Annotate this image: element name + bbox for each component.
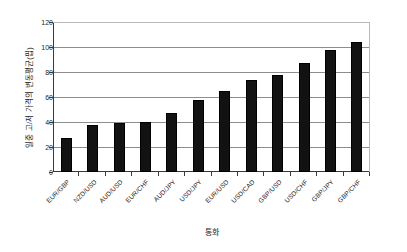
bar-slot <box>317 22 343 172</box>
x-label-cell: GBP/CHF <box>344 176 370 222</box>
bar <box>325 50 336 173</box>
bar-slot <box>291 22 317 172</box>
bar-chart-figure: 일중 고/저 가격의 변동평균(핍) 020406080100120 EUR/G… <box>0 0 407 252</box>
x-axis-title: 통화 <box>53 226 370 237</box>
bar <box>114 123 125 172</box>
bar <box>87 125 98 173</box>
bar <box>193 100 204 173</box>
x-axis-labels: EUR/GBPNZD/USDAUD/USDEUR/CHFAUD/JPYUSD/J… <box>53 176 370 222</box>
y-axis-ticks: 020406080100120 <box>0 0 53 252</box>
bar <box>61 138 72 172</box>
bar-slot <box>79 22 105 172</box>
bar <box>272 75 283 173</box>
bar-slot <box>132 22 158 172</box>
bar-slot <box>344 22 370 172</box>
bar <box>166 113 177 172</box>
bar <box>351 42 362 172</box>
bar-slot <box>53 22 79 172</box>
bar-slot <box>212 22 238 172</box>
bar <box>299 63 310 172</box>
bar <box>246 80 257 173</box>
bar-slot <box>159 22 185 172</box>
bar-slot <box>185 22 211 172</box>
bar-slot <box>264 22 290 172</box>
bars-layer <box>53 22 370 172</box>
bar <box>140 122 151 172</box>
bar-slot <box>106 22 132 172</box>
bar <box>219 91 230 172</box>
bar-slot <box>238 22 264 172</box>
